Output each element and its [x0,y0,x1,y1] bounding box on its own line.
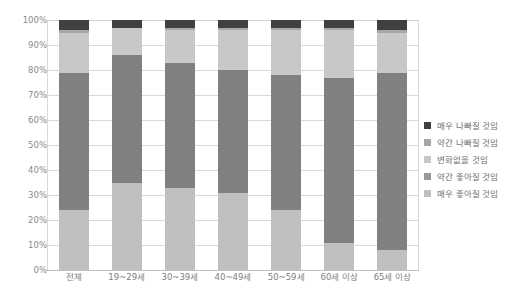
legend-swatch-icon [424,173,431,180]
bar-segment[interactable] [377,250,407,270]
bar-segment[interactable] [218,193,248,271]
bar-group [377,20,407,270]
bar-segment[interactable] [59,20,89,30]
bar-segment[interactable] [324,78,354,243]
bar-segment[interactable] [324,20,354,28]
legend-label: 약간 좋아질 것임 [437,172,498,182]
bar-group [324,20,354,270]
stacked-bar[interactable] [377,20,407,270]
gridline [47,270,419,271]
y-axis-tick-label: 0% [5,266,47,275]
bar-group [165,20,195,270]
bar-group [59,20,89,270]
bar-segment[interactable] [165,188,195,271]
stacked-bar[interactable] [165,20,195,270]
y-axis: 100%90%80%70%60%50%40%30%20%10%0% [0,20,47,270]
y-axis-tick-label: 90% [5,41,47,50]
y-axis-tick-label: 80% [5,66,47,75]
bar-segment[interactable] [271,30,301,75]
y-axis-tick-label: 20% [5,216,47,225]
bar-segment[interactable] [324,243,354,271]
plot-area [47,20,419,270]
legend-item[interactable]: 매우 나빠질 것임 [424,117,520,134]
bar-segment[interactable] [377,73,407,251]
bar-segment[interactable] [377,20,407,30]
bar-segment[interactable] [59,210,89,270]
x-axis-tick-label: 19~29세 [100,272,153,283]
x-axis-tick-label: 60세 이상 [313,272,366,283]
bar-segment[interactable] [377,30,407,33]
legend-item[interactable]: 매우 좋아질 것임 [424,185,520,202]
legend-item[interactable]: 약간 나빠질 것임 [424,134,520,151]
y-axis-tick-label: 100% [5,16,47,25]
x-axis-tick-label: 30~39세 [153,272,206,283]
bar-segment[interactable] [59,30,89,33]
bar-segment[interactable] [377,33,407,73]
bar-segment[interactable] [218,30,248,70]
stacked-bar[interactable] [218,20,248,270]
legend-swatch-icon [424,122,431,129]
bar-segment[interactable] [271,20,301,28]
y-axis-tick-label: 60% [5,116,47,125]
y-axis-tick-label: 70% [5,91,47,100]
y-axis-tick-label: 40% [5,166,47,175]
bar-segment[interactable] [112,183,142,271]
x-axis-labels: 전체19~29세30~39세40~49세50~59세60세 이상65세 이상 [47,272,419,288]
stacked-bar[interactable] [59,20,89,270]
legend-item[interactable]: 변화없을 것임 [424,151,520,168]
bar-group [271,20,301,270]
bar-segment[interactable] [324,30,354,78]
bar-segment[interactable] [271,75,301,210]
bar-segment[interactable] [218,28,248,31]
bar-segment[interactable] [59,33,89,73]
legend-label: 약간 나빠질 것임 [437,138,498,148]
legend-label: 변화없을 것임 [437,155,488,165]
bar-segment[interactable] [165,63,195,188]
bar-segment[interactable] [324,28,354,31]
stacked-bar-chart: 100%90%80%70%60%50%40%30%20%10%0% 전체19~2… [0,0,522,302]
bar-segment[interactable] [218,70,248,193]
legend-swatch-icon [424,139,431,146]
legend-swatch-icon [424,190,431,197]
y-axis-tick-label: 50% [5,141,47,150]
legend-label: 매우 나빠질 것임 [437,121,498,131]
bar-group [218,20,248,270]
x-axis-tick-label: 전체 [47,272,100,283]
bar-segment[interactable] [112,28,142,56]
bars-layer [47,20,419,270]
bar-segment[interactable] [59,73,89,211]
stacked-bar[interactable] [112,20,142,270]
bar-segment[interactable] [112,55,142,183]
x-axis-tick-label: 40~49세 [206,272,259,283]
chart-legend: 매우 나빠질 것임약간 나빠질 것임변화없을 것임약간 좋아질 것임매우 좋아질… [424,117,520,202]
y-axis-tick-label: 30% [5,191,47,200]
bar-segment[interactable] [271,210,301,270]
x-axis-tick-label: 65세 이상 [366,272,419,283]
bar-segment[interactable] [165,20,195,28]
bar-segment[interactable] [112,20,142,28]
bar-segment[interactable] [218,20,248,28]
stacked-bar[interactable] [324,20,354,270]
bar-segment[interactable] [165,30,195,63]
bar-segment[interactable] [165,28,195,31]
bar-group [112,20,142,270]
legend-item[interactable]: 약간 좋아질 것임 [424,168,520,185]
stacked-bar[interactable] [271,20,301,270]
bar-segment[interactable] [271,28,301,31]
legend-label: 매우 좋아질 것임 [437,189,498,199]
legend-swatch-icon [424,156,431,163]
y-axis-tick-label: 10% [5,241,47,250]
x-axis-tick-label: 50~59세 [260,272,313,283]
